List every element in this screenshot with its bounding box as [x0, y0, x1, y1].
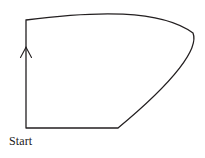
- arrow-left-barb: [21, 47, 27, 57]
- diagram-canvas: Start: [0, 0, 205, 158]
- arrow-right-barb: [26, 47, 32, 57]
- closed-path-outline: [26, 14, 194, 128]
- start-label: Start: [9, 134, 32, 148]
